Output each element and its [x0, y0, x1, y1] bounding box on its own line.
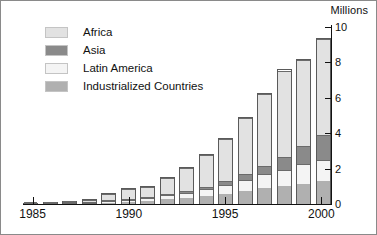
bar-segment [297, 184, 310, 204]
bar-segment [297, 60, 310, 146]
bar-1996[interactable] [238, 117, 253, 204]
x-axis-tick [129, 197, 130, 205]
bar-1991[interactable] [140, 186, 155, 204]
chart-figure: Millions AfricaAsiaLatin AmericaIndustri… [0, 0, 377, 235]
y-axis-tick [325, 27, 332, 28]
bar-segment [317, 39, 330, 136]
bar-segment [317, 181, 330, 204]
bar-1993[interactable] [179, 167, 194, 204]
y-axis-tick-label: 4 [335, 127, 341, 139]
bar-segment [317, 160, 330, 181]
bar-segment [278, 71, 291, 158]
chart-plot-area [23, 27, 331, 204]
bar-segment [278, 157, 291, 169]
bar-segment [258, 94, 271, 167]
bar-segment [258, 166, 271, 174]
bar-segment [239, 191, 252, 204]
bar-1998[interactable] [277, 69, 292, 204]
x-axis-tick-label: 1995 [212, 207, 239, 221]
y-axis-tick-label: 0 [335, 198, 341, 210]
bar-segment [180, 168, 193, 191]
x-axis-tick [33, 197, 34, 205]
bar-segment [278, 186, 291, 204]
bar-segment [297, 146, 310, 164]
bar-segment [297, 164, 310, 183]
y-axis-tick-label: 2 [335, 163, 341, 175]
bar-segment [161, 178, 174, 193]
bar-segment [317, 135, 330, 160]
x-axis-tick [225, 197, 226, 205]
x-axis-tick-label: 1985 [19, 207, 46, 221]
bar-segment [239, 118, 252, 174]
bar-segment [200, 155, 213, 186]
bar-segment [141, 187, 154, 196]
bar-1995[interactable] [218, 138, 233, 204]
x-axis-tick-label: 1990 [116, 207, 143, 221]
bar-segment [258, 188, 271, 204]
y-axis-tick-label: 6 [335, 92, 341, 104]
y-axis-tick [325, 133, 332, 134]
bar-1999[interactable] [296, 59, 311, 204]
bar-1994[interactable] [199, 154, 214, 204]
bar-segment [239, 180, 252, 191]
bar-group [23, 27, 331, 204]
y-axis-units-label: Millions [331, 4, 368, 16]
x-axis-tick-label: 2000 [308, 207, 335, 221]
bar-segment [219, 139, 232, 182]
y-axis-tick [325, 62, 332, 63]
y-axis-tick [325, 98, 332, 99]
y-axis-tick-label: 10 [335, 21, 347, 33]
bar-1989[interactable] [101, 193, 116, 204]
bar-segment [278, 170, 291, 187]
bar-segment [258, 174, 271, 188]
y-axis-tick [325, 204, 332, 205]
x-axis-line [23, 204, 331, 205]
bar-1992[interactable] [160, 177, 175, 204]
x-axis-tick [321, 197, 322, 205]
y-axis-tick-label: 8 [335, 56, 341, 68]
y-axis-tick [325, 169, 332, 170]
bar-segment [200, 189, 213, 196]
bar-segment [219, 185, 232, 194]
bar-segment [200, 196, 213, 204]
bar-1997[interactable] [257, 93, 272, 205]
y-axis-line [331, 25, 332, 205]
